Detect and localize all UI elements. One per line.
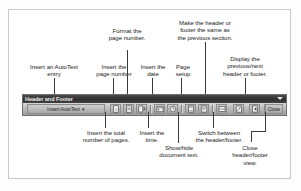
toolbar-separator — [181, 105, 183, 113]
callout-insert-time: Insert the time. — [136, 129, 168, 144]
leader-format-page-number — [127, 50, 128, 94]
leader-insert-time — [148, 112, 149, 128]
leader-show-hide — [178, 112, 179, 143]
callout-insert-page-number: Insert the page number — [92, 63, 136, 78]
callout-switch-header-footer: Switch between the header/footer. — [186, 129, 252, 144]
callout-format-page-number: Format the page number. — [99, 27, 155, 42]
insert-page-number-button[interactable]: # — [110, 104, 121, 114]
insert-autotext-dropdown[interactable]: Insert AutoText ▾ — [27, 104, 105, 114]
toolbar-title: Header and Footer — [25, 95, 73, 103]
callout-insert-autotext: Insert an AutoText entry — [18, 63, 90, 78]
callout-display-previous-next: Display the previous/next header or foot… — [214, 55, 276, 77]
same-as-previous-button[interactable] — [216, 104, 227, 114]
page-setup-button[interactable] — [185, 104, 196, 114]
close-header-footer-button[interactable]: Close — [265, 104, 283, 114]
leader-close-view-horizontal — [251, 131, 266, 132]
toolbar-titlebar[interactable]: Header and Footer — [23, 95, 286, 103]
show-hide-document-text-button[interactable] — [198, 104, 209, 114]
header-and-footer-toolbar[interactable]: Header and Footer Insert AutoText ▾ # — [22, 94, 287, 116]
insert-time-button[interactable] — [167, 104, 178, 114]
insert-number-of-pages-button[interactable] — [123, 104, 134, 114]
callout-show-hide-document-text: Show/hide document text. — [150, 144, 208, 159]
callout-close-header-footer-view: Close header/footer view. — [224, 144, 276, 166]
insert-date-button[interactable] — [154, 104, 165, 114]
leader-close-view — [265, 112, 266, 131]
callout-same-as-previous: Make the header or footer the same as th… — [169, 19, 241, 41]
callout-insert-date: Insert the date — [137, 63, 169, 78]
callout-page-setup: Page setup — [170, 63, 196, 78]
format-page-number-button[interactable] — [136, 104, 147, 114]
callout-insert-total-pages: Insert the total number of pages. — [78, 129, 134, 144]
insert-autotext-label: Insert AutoText — [47, 105, 80, 113]
show-previous-button[interactable] — [249, 104, 260, 114]
chevron-down-icon: ▾ — [82, 105, 85, 113]
leader-switch-header-footer — [213, 112, 214, 128]
toolbar-button-row: Insert AutoText ▾ # — [23, 103, 286, 115]
close-button-label: Close — [268, 105, 280, 113]
leader-same-as-previous — [205, 42, 206, 94]
toolbar-separator — [150, 105, 152, 113]
switch-header-footer-button[interactable] — [233, 104, 244, 114]
leader-total-pages — [105, 112, 106, 128]
figure-page: Format the page number. Make the header … — [0, 0, 301, 191]
chevron-down-icon[interactable] — [277, 97, 283, 100]
